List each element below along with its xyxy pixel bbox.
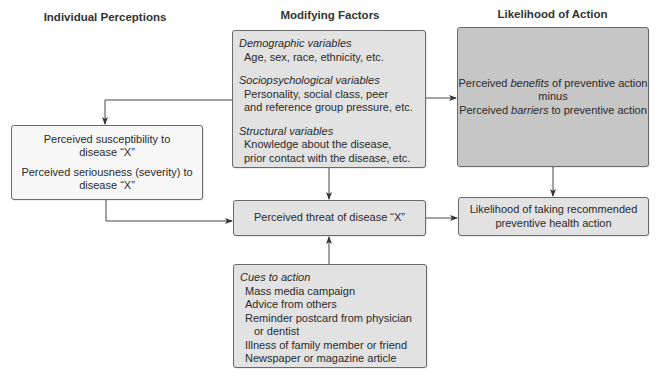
susceptibility-line-2: disease “X”	[79, 146, 135, 160]
cues-to-action-box: Cues to action Mass media campaign Advic…	[233, 264, 427, 368]
likelihood-of-action-box: Likelihood of taking recommended prevent…	[458, 197, 649, 236]
modifying-factors-box: Demographic variables Age, sex, race, et…	[232, 30, 426, 168]
minus-line: minus	[538, 90, 567, 104]
benefits-post: of preventive action	[549, 77, 647, 89]
demographic-variables-title: Demographic variables	[239, 37, 425, 51]
header-likelihood-of-action: Likelihood of Action	[470, 8, 635, 20]
structural-variables-title: Structural variables	[239, 125, 425, 139]
header-modifying-factors: Modifying Factors	[245, 9, 415, 21]
individual-perceptions-box: Perceived susceptibility to disease “X” …	[11, 125, 203, 200]
arrow-modifying-to-individual	[105, 100, 232, 124]
cue-item: Reminder postcard from physician	[240, 312, 426, 326]
perceived-threat-box: Perceived threat of disease “X”	[233, 200, 426, 236]
spacer	[239, 115, 425, 125]
sociopsychological-variables-title: Sociopsychological variables	[239, 74, 425, 88]
sociopsychological-variables-item: and reference group pressure, etc.	[239, 101, 425, 115]
barriers-line: Perceived barriers to preventive action	[459, 104, 647, 118]
cue-item-continuation: or dentist	[240, 325, 426, 339]
cue-item: Mass media campaign	[240, 285, 426, 299]
arrow-individual-to-threat	[106, 200, 232, 221]
sociopsychological-variables-item: Personality, social class, peer	[239, 88, 425, 102]
benefits-pre: Perceived	[459, 77, 511, 89]
cue-item: Newspaper or magazine article	[240, 352, 426, 366]
seriousness-line-1: Perceived seriousness (severity) to	[21, 166, 192, 180]
barriers-post: to preventive action	[548, 104, 646, 116]
action-line-1: Likelihood of taking recommended	[470, 203, 638, 217]
cue-item: Advice from others	[240, 298, 426, 312]
susceptibility-line-1: Perceived susceptibility to	[44, 133, 171, 147]
cue-item: Illness of family member or friend	[240, 339, 426, 353]
barriers-pre: Perceived	[459, 104, 511, 116]
spacer	[239, 64, 425, 74]
demographic-variables-item: Age, sex, race, ethnicity, etc.	[239, 51, 425, 65]
barriers-emphasis: barriers	[511, 104, 548, 116]
header-individual-perceptions: Individual Perceptions	[30, 11, 180, 23]
seriousness-line-2: disease “X”	[79, 179, 135, 193]
structural-variables-item: prior contact with the disease, etc.	[239, 152, 425, 166]
action-line-2: preventive health action	[495, 217, 611, 231]
benefits-line: Perceived benefits of preventive action	[459, 77, 648, 91]
perceived-threat-label: Perceived threat of disease “X”	[254, 211, 405, 225]
cues-to-action-title: Cues to action	[240, 271, 426, 285]
benefits-emphasis: benefits	[511, 77, 550, 89]
benefits-barriers-box: Perceived benefits of preventive action …	[457, 27, 649, 167]
structural-variables-item: Knowledge about the disease,	[239, 138, 425, 152]
